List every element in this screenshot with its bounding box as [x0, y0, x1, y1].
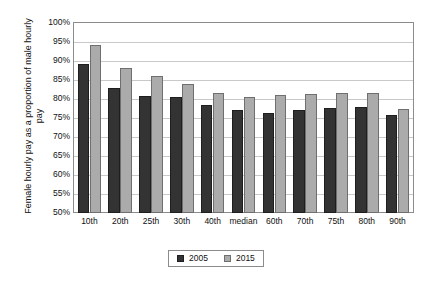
x-axis-tick-label: 30th [166, 216, 197, 227]
y-axis-tick-label: 90% [4, 56, 70, 65]
y-axis-tick-label: 70% [4, 132, 70, 141]
bars-layer [74, 23, 413, 213]
bar-2005-40th [201, 105, 213, 213]
bar-2015-75th [336, 93, 348, 213]
x-axis-tick-label: 60th [259, 216, 290, 227]
bar-group [197, 23, 228, 213]
bar-chart: Female hourly pay as a proportion of mal… [0, 0, 433, 281]
legend-swatch-icon-2005 [177, 255, 184, 262]
bar-2005-25th [139, 96, 151, 213]
bar-2015-10th [90, 45, 102, 213]
legend-item-2005: 2005 [177, 253, 208, 263]
bar-group [321, 23, 352, 213]
x-axis-tick-label: 80th [351, 216, 382, 227]
bar-2005-60th [263, 113, 275, 213]
bar-group [259, 23, 290, 213]
x-axis-tick-label: 20th [105, 216, 136, 227]
bar-group [105, 23, 136, 213]
y-axis-ticks: 50%55%60%65%70%75%80%85%90%95%100% [0, 22, 70, 213]
bar-2005-90th [386, 115, 398, 213]
bar-group [228, 23, 259, 213]
y-axis-tick-label: 80% [4, 94, 70, 103]
bar-2015-90th [398, 109, 410, 213]
y-axis-tick-label: 85% [4, 75, 70, 84]
x-axis-tick-label: 70th [290, 216, 321, 227]
y-axis-tick-label: 50% [4, 208, 70, 217]
bar-2015-80th [367, 93, 379, 213]
bar-2005-median [232, 110, 244, 213]
x-axis-tick-label: median [228, 216, 259, 227]
legend-label-2005: 2005 [189, 253, 208, 263]
bar-2015-30th [182, 84, 194, 213]
bar-2015-70th [305, 94, 317, 213]
bar-2005-30th [170, 97, 182, 213]
bar-2015-20th [120, 68, 132, 213]
bar-2015-25th [151, 76, 163, 213]
bar-2005-20th [108, 88, 120, 213]
bar-2005-70th [293, 110, 305, 213]
bar-group [351, 23, 382, 213]
x-axis-tick-label: 75th [321, 216, 352, 227]
bar-2015-60th [275, 95, 287, 213]
x-axis-tick-label: 25th [136, 216, 167, 227]
legend-label-2015: 2015 [236, 253, 255, 263]
chart-legend: 2005 2015 [168, 250, 264, 267]
bar-2015-median [244, 97, 256, 213]
bar-2005-10th [78, 64, 90, 213]
y-axis-tick-label: 100% [4, 18, 70, 27]
bar-group [74, 23, 105, 213]
bar-group [136, 23, 167, 213]
bar-group [382, 23, 413, 213]
y-axis-tick-label: 75% [4, 113, 70, 122]
bar-group [290, 23, 321, 213]
legend-item-2015: 2015 [224, 253, 255, 263]
y-axis-tick-label: 60% [4, 170, 70, 179]
y-axis-tick-label: 55% [4, 189, 70, 198]
x-axis-tick-label: 10th [74, 216, 105, 227]
x-axis-tick-label: 40th [197, 216, 228, 227]
bar-group [166, 23, 197, 213]
bar-2005-80th [355, 107, 367, 213]
y-axis-tick-label: 95% [4, 37, 70, 46]
legend-swatch-icon-2015 [224, 255, 231, 262]
x-axis-ticks: 10th20th25th30th40thmedian60th70th75th80… [74, 216, 413, 230]
x-axis-tick-label: 90th [382, 216, 413, 227]
bar-2015-40th [213, 93, 225, 213]
y-axis-tick-label: 65% [4, 151, 70, 160]
bar-2005-75th [324, 108, 336, 213]
